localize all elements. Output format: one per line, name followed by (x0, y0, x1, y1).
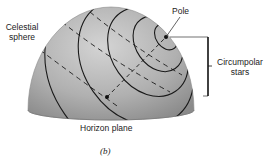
pole-pointer (166, 17, 180, 37)
label-line: Celestial (4, 22, 40, 32)
horizon-plane-label: Horizon plane (80, 123, 132, 133)
label-line: Circumpolar (214, 57, 266, 67)
celestial-sphere-label: Celestial sphere (4, 22, 40, 42)
figure-caption: (b) (100, 146, 111, 156)
label-line: stars (214, 67, 266, 77)
observer-dot (105, 95, 109, 99)
label-line: sphere (4, 32, 40, 42)
circumpolar-stars-label: Circumpolar stars (214, 57, 266, 77)
pole-label: Pole (172, 6, 189, 16)
